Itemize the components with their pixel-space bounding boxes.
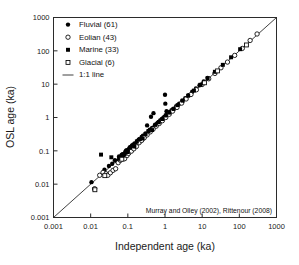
data-point-fluvial <box>151 111 155 115</box>
data-point-fluvial <box>149 115 153 119</box>
data-point-marine <box>172 107 176 111</box>
data-point-marine <box>186 94 190 98</box>
y-axis-title: OSL age (ka) <box>4 86 16 148</box>
data-point-fluvial <box>110 162 114 166</box>
x-tick-label: 0.1 <box>123 222 133 231</box>
legend-marker-open-square <box>66 60 70 64</box>
data-point-marine <box>221 63 225 67</box>
data-point-glacial <box>103 174 107 178</box>
data-point-glacial <box>93 188 97 192</box>
data-point-marine <box>160 117 164 121</box>
data-point-fluvial <box>145 123 149 127</box>
data-point-marine <box>167 111 171 115</box>
data-point-marine <box>141 136 145 140</box>
data-point-glacial <box>216 69 220 73</box>
legend-label: 1:1 line <box>79 70 104 79</box>
legend-label: Eolian (43) <box>79 33 117 42</box>
data-point-marine <box>157 120 161 124</box>
data-point-marine <box>198 83 202 87</box>
data-point-fluvial <box>163 101 167 105</box>
legend-marker-filled-circle <box>66 22 70 26</box>
data-point-eolian <box>225 60 229 64</box>
data-point-marine <box>126 150 130 154</box>
scatter-plot-figure: 0.0010.010.11101001000 0.0010.010.111010… <box>0 0 299 265</box>
data-point-eolian <box>255 32 259 36</box>
data-point-marine <box>181 99 185 103</box>
legend-label: Fluvial (61) <box>79 20 118 29</box>
legend-marker-open-circle <box>66 35 70 39</box>
data-point-marine <box>132 145 136 149</box>
data-point-fluvial <box>163 93 167 97</box>
y-tick-label: 10 <box>41 80 49 89</box>
data-point-marine <box>164 114 168 118</box>
data-point-glacial <box>120 157 124 161</box>
legend-marker-filled-square <box>66 48 70 52</box>
data-point-marine <box>147 129 151 133</box>
data-point-eolian <box>113 167 117 171</box>
y-tick-label: 0.01 <box>35 180 50 189</box>
y-tick-label: 1000 <box>33 13 50 22</box>
data-point-eolian <box>248 38 252 42</box>
x-tick-label: 0.01 <box>83 222 98 231</box>
x-tick-label: 1 <box>163 222 167 231</box>
data-point-marine <box>238 47 242 51</box>
data-point-marine <box>109 155 113 159</box>
data-point-fluvial <box>89 180 93 184</box>
data-point-eolian <box>233 53 237 57</box>
data-point-marine <box>229 55 233 59</box>
data-point-glacial <box>244 43 248 47</box>
data-point-marine <box>153 123 157 127</box>
data-point-marine <box>192 89 196 93</box>
legend-label: Marine (33) <box>79 45 119 54</box>
data-point-marine <box>176 103 180 107</box>
y-tick-label: 1 <box>45 113 49 122</box>
x-axis-title: Independent age (ka) <box>115 240 215 252</box>
x-tick-label: 1000 <box>268 222 285 231</box>
x-tick-label: 10 <box>198 222 206 231</box>
citation-annotation: Murray and Olley (2002), Rittenour (2008… <box>146 207 272 215</box>
y-tick-label: 0.001 <box>31 213 50 222</box>
y-tick-label: 100 <box>37 47 50 56</box>
x-tick-label: 0.001 <box>44 222 63 231</box>
data-point-marine <box>99 153 103 157</box>
data-point-marine <box>206 76 210 80</box>
x-tick-label: 100 <box>233 222 246 231</box>
y-tick-label: 0.1 <box>39 147 49 156</box>
legend-label: Glacial (6) <box>79 58 115 67</box>
data-point-glacial <box>202 81 206 85</box>
data-point-marine <box>150 128 154 132</box>
